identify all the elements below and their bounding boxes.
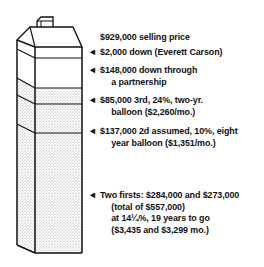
label-third-mortgage: ◄$85,000 3rd, 24%, two-yr. balloon ($2,2…	[88, 94, 203, 117]
label-line: $148,000 down through	[100, 64, 197, 75]
label-down-partnership: ◄$148,000 down through a partnership	[88, 64, 197, 87]
arrow-left-icon: ◄	[88, 125, 100, 137]
house-financing-diagram: $929,000 selling price ◄$2,000 down (Eve…	[0, 0, 264, 267]
roof-icon	[17, 27, 82, 47]
label-line: $85,000 3rd, 24%, two-yr.	[100, 94, 203, 105]
label-line: year balloon ($1,351/mo.)	[88, 137, 238, 149]
label-line: $929,000 selling price	[88, 31, 190, 43]
label-line: a partnership	[88, 76, 197, 88]
arrow-left-icon: ◄	[88, 94, 100, 106]
label-line: ($3,435 and $3,299 mo.)	[88, 224, 239, 236]
label-down-everett: ◄$2,000 down (Everett Carson)	[88, 46, 222, 58]
arrow-left-icon: ◄	[88, 46, 100, 58]
label-line: balloon ($2,260/mo.)	[88, 106, 203, 118]
label-line: $2,000 down (Everett Carson)	[100, 46, 222, 57]
label-line: $137,000 2d assumed, 10%, eight	[100, 125, 237, 136]
label-selling-price: $929,000 selling price	[88, 31, 190, 43]
label-two-firsts: ◄Two firsts: $284,000 and $273,000 (tota…	[88, 189, 239, 235]
label-line: (total of $557,000)	[88, 201, 239, 213]
label-line: Two firsts: $284,000 and $273,000	[100, 189, 239, 200]
label-line: at 14¼%, 19 years to go	[88, 212, 239, 224]
arrow-left-icon: ◄	[88, 189, 100, 201]
label-second-assumed: ◄$137,000 2d assumed, 10%, eight year ba…	[88, 125, 238, 148]
arrow-left-icon: ◄	[88, 64, 100, 76]
